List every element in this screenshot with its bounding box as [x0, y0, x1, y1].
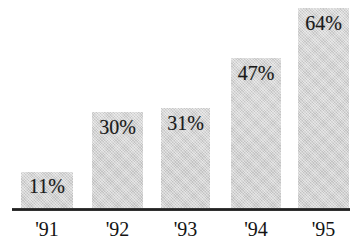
x-tick-label-1992: '92	[92, 216, 143, 242]
x-axis-line	[12, 208, 350, 211]
plot-area: 11% 30% 31% 47% 64%	[0, 0, 353, 211]
bar-value-1995: 64%	[298, 13, 349, 33]
x-tick-label-1993: '93	[161, 216, 210, 242]
bar-value-1991: 11%	[21, 176, 73, 196]
bar-chart: 11% 30% 31% 47% 64% '91 '92 '93 '94 '95	[0, 0, 353, 247]
bar-1995	[298, 8, 349, 209]
x-axis-tick-labels: '91 '92 '93 '94 '95	[0, 216, 353, 247]
x-tick-label-1994: '94	[231, 216, 281, 242]
bar-value-1993: 31%	[161, 113, 210, 133]
bar-value-1994: 47%	[231, 63, 281, 83]
bar-value-1992: 30%	[92, 117, 143, 137]
x-tick-label-1995: '95	[298, 216, 349, 242]
x-tick-label-1991: '91	[21, 216, 73, 242]
